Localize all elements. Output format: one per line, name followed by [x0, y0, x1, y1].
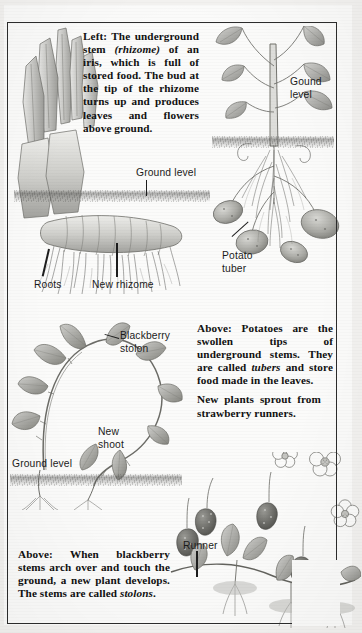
- border-break-bottom-right: [292, 560, 340, 626]
- caption-blackberry-lead: Above:: [18, 548, 53, 560]
- leader-ground-level-top: [146, 180, 147, 196]
- label-ground-level-top: Ground level: [136, 167, 196, 180]
- label-gound-level: Gound level: [290, 76, 322, 101]
- caption-potato-lead: Above:: [197, 322, 232, 334]
- label-ground-level-bottom: Ground level: [12, 458, 72, 471]
- caption-blackberry: Above: When blackberry stems arch over a…: [18, 548, 170, 600]
- leader-runner: [196, 551, 198, 577]
- caption-blackberry-part2: .: [153, 587, 156, 599]
- caption-iris-part2: of an iris, which is full of stored food…: [83, 43, 199, 134]
- caption-iris: Left: The underground stem (rhizome) of …: [83, 30, 199, 135]
- label-runner: Runner: [183, 540, 218, 553]
- label-roots: Roots: [34, 279, 62, 292]
- caption-strawberry: New plants sprout from strawberry runner…: [197, 392, 321, 420]
- label-blackberry-stolon: Blackberry stolon: [120, 330, 170, 355]
- caption-potato: Above: Potatoes are the swollen tips of …: [197, 322, 333, 387]
- caption-iris-italic-rhizome: (rhizome): [114, 43, 160, 55]
- caption-blackberry-italic-stolons: stolons: [120, 587, 153, 599]
- scanned-page: Left: The underground stem (rhizome) of …: [0, 0, 362, 633]
- label-potato-tuber: Potato tuber: [222, 250, 253, 275]
- leader-new-rhizome: [116, 243, 118, 277]
- caption-iris-lead: Left:: [83, 30, 107, 42]
- label-new-rhizome: New rhizome: [92, 279, 154, 292]
- label-new-shoot: New shoot: [98, 426, 124, 451]
- caption-potato-italic-tubers: tubers: [251, 361, 280, 373]
